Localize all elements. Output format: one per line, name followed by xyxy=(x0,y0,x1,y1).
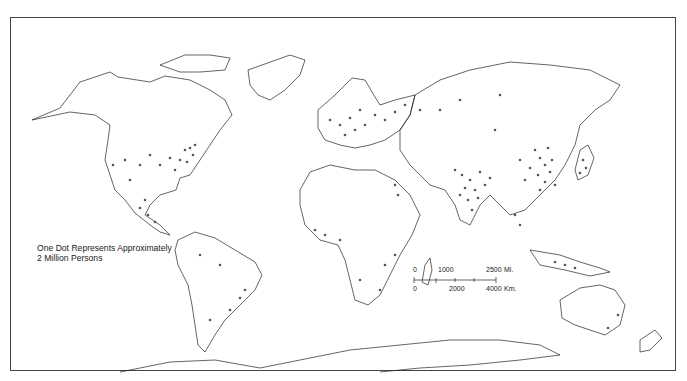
indonesia-outline xyxy=(530,250,610,276)
world-map xyxy=(0,0,687,381)
europe-outline xyxy=(318,78,415,148)
japan-outline xyxy=(575,145,594,180)
scale-mi-2500: 2500 xyxy=(486,266,502,273)
legend-line-2: 2 Million Persons xyxy=(37,253,172,263)
scale-bar: 0 1000 2500 Mi. 0 2000 4000 Km. xyxy=(411,266,521,296)
australia-outline xyxy=(560,285,625,335)
scale-km-0: 0 xyxy=(413,285,417,292)
new-zealand-outline xyxy=(640,330,662,352)
arctic-islands-outline xyxy=(160,55,230,72)
asia-outline xyxy=(400,62,620,225)
scale-km-2000: 2000 xyxy=(449,285,465,292)
coastlines xyxy=(32,55,662,372)
population-dots xyxy=(112,94,620,330)
scale-km-unit: Km. xyxy=(504,285,516,292)
africa-outline xyxy=(300,165,420,305)
north-america-outline xyxy=(32,72,232,235)
scale-km-4000: 4000 xyxy=(486,285,502,292)
antarctica-outline xyxy=(120,340,560,372)
scale-mi-0: 0 xyxy=(413,266,417,273)
greenland-outline xyxy=(248,55,305,100)
map-legend: One Dot Represents Approximately 2 Milli… xyxy=(37,243,172,263)
south-america-outline xyxy=(175,232,262,352)
scale-mi-1000: 1000 xyxy=(438,266,454,273)
legend-line-1: One Dot Represents Approximately xyxy=(37,243,172,253)
scale-mi-unit: Mi. xyxy=(504,266,513,273)
